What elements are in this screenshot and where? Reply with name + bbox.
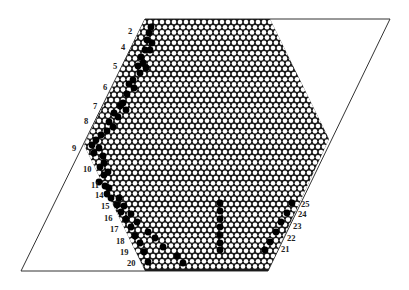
defect-dot bbox=[114, 202, 121, 209]
defect-label: 24 bbox=[298, 209, 307, 219]
defect-dot bbox=[123, 216, 130, 223]
defect-dot bbox=[121, 203, 128, 210]
defect-dot bbox=[284, 210, 291, 217]
defect-dot bbox=[110, 124, 117, 131]
defect-dot bbox=[116, 195, 123, 202]
defect-dot bbox=[180, 260, 187, 267]
defect-dot bbox=[262, 247, 269, 254]
defect-dot bbox=[138, 54, 145, 61]
defect-label: 7 bbox=[93, 101, 98, 111]
defect-dot bbox=[143, 65, 150, 72]
defect-dot bbox=[141, 249, 148, 256]
lattice-diagram: 24567891011141516171819202524232221 bbox=[0, 0, 409, 290]
defect-dot bbox=[146, 30, 153, 37]
defect-dot bbox=[217, 200, 224, 207]
defect-dot bbox=[135, 63, 142, 70]
defect-label: 4 bbox=[121, 42, 126, 52]
defect-dot bbox=[137, 240, 144, 247]
defect-dot bbox=[89, 142, 96, 149]
defect-dot bbox=[289, 200, 296, 207]
defect-dot bbox=[278, 219, 285, 226]
defect-dot bbox=[217, 216, 224, 223]
defect-dot bbox=[147, 47, 154, 54]
defect-label: 5 bbox=[113, 61, 117, 71]
defect-dot bbox=[217, 208, 224, 215]
defect-dot bbox=[149, 40, 156, 47]
lattice-svg: 24567891011141516171819202524232221 bbox=[0, 0, 409, 290]
defect-dot bbox=[217, 232, 224, 239]
defect-dot bbox=[160, 244, 167, 251]
defect-dot bbox=[123, 107, 130, 114]
defect-dot bbox=[117, 103, 124, 110]
defect-dot bbox=[106, 185, 113, 192]
defect-dot bbox=[128, 224, 135, 231]
defect-dot bbox=[148, 24, 155, 31]
defect-label: 19 bbox=[120, 247, 129, 257]
defect-dot bbox=[217, 240, 224, 247]
defect-dot bbox=[96, 145, 103, 152]
defect-label: 18 bbox=[116, 236, 125, 246]
defect-label: 15 bbox=[101, 201, 110, 211]
defect-label: 8 bbox=[84, 116, 88, 126]
defect-dot bbox=[152, 235, 159, 242]
defect-dot bbox=[131, 85, 138, 92]
defect-dot bbox=[145, 229, 152, 236]
defect-dot bbox=[100, 153, 107, 160]
defect-label: 10 bbox=[83, 164, 92, 174]
defect-label: 2 bbox=[128, 26, 132, 36]
defect-label: 14 bbox=[95, 190, 104, 200]
defect-dot bbox=[273, 229, 280, 236]
defect-dot bbox=[98, 132, 105, 139]
defect-dot bbox=[128, 211, 135, 218]
defect-label: 21 bbox=[281, 244, 290, 254]
defect-label: 22 bbox=[287, 233, 296, 243]
defect-label: 17 bbox=[110, 224, 119, 234]
defect-label: 6 bbox=[103, 82, 107, 92]
defect-dot bbox=[217, 224, 224, 231]
defect-dot bbox=[132, 233, 139, 240]
defect-dot bbox=[217, 247, 224, 254]
defect-label: 9 bbox=[72, 143, 76, 153]
defect-dot bbox=[101, 172, 108, 179]
defect-label: 25 bbox=[301, 199, 310, 209]
defect-label: 11 bbox=[91, 180, 99, 190]
defect-dot bbox=[124, 91, 131, 98]
defect-dot bbox=[115, 114, 122, 121]
defect-label: 20 bbox=[127, 258, 136, 268]
defect-label: 16 bbox=[104, 213, 113, 223]
defect-dot bbox=[137, 70, 144, 77]
defect-dot bbox=[91, 150, 98, 157]
defect-dot bbox=[145, 259, 152, 266]
defect-label: 23 bbox=[293, 221, 302, 231]
defect-dot bbox=[118, 209, 125, 216]
defect-dot bbox=[134, 219, 141, 226]
defect-dot bbox=[267, 239, 274, 246]
defect-dot bbox=[97, 164, 104, 171]
defect-dot bbox=[174, 253, 181, 260]
defect-dot bbox=[104, 128, 111, 135]
